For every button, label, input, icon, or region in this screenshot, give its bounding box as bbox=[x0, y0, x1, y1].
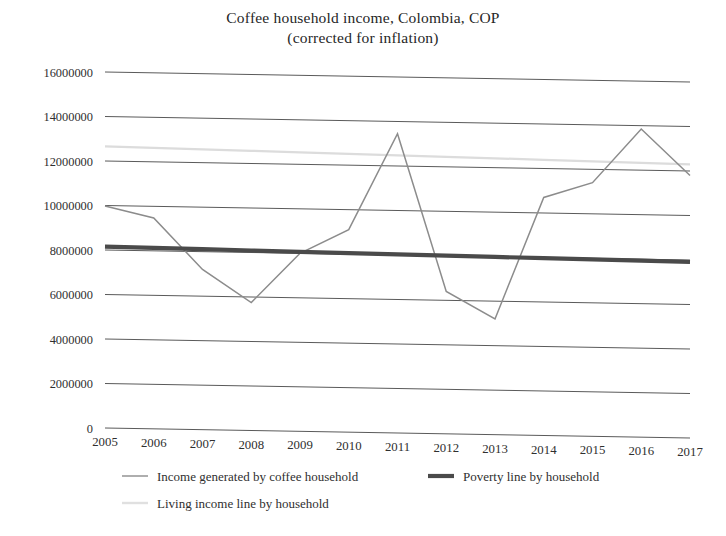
gridline bbox=[105, 339, 690, 349]
x-axis-tick-label: 2016 bbox=[628, 444, 654, 458]
legend-label: Income generated by coffee household bbox=[157, 469, 359, 484]
y-axis-tick-label: 16000000 bbox=[43, 66, 93, 80]
y-axis-tick-label: 6000000 bbox=[50, 288, 93, 302]
x-axis-tick-label: 2007 bbox=[190, 437, 216, 451]
x-axis-tick-label: 2009 bbox=[287, 438, 313, 452]
legend-label: Poverty line by household bbox=[463, 469, 600, 484]
legend-label: Living income line by household bbox=[157, 496, 329, 511]
y-axis-tick-label: 10000000 bbox=[43, 199, 93, 213]
x-axis-tick-label: 2008 bbox=[238, 438, 264, 452]
x-axis-tick-label: 2005 bbox=[92, 435, 118, 449]
x-axis-tick-label: 2012 bbox=[433, 441, 459, 455]
x-axis-tick-label: 2017 bbox=[677, 445, 703, 459]
gridline bbox=[105, 117, 690, 127]
y-axis-tick-labels: 1600000014000000120000001000000080000006… bbox=[43, 66, 93, 436]
x-axis-tick-label: 2014 bbox=[531, 443, 557, 457]
chart-plot: 1600000014000000120000001000000080000006… bbox=[0, 0, 726, 536]
data-series-group bbox=[105, 129, 690, 319]
y-axis-tick-label: 14000000 bbox=[43, 110, 93, 124]
y-axis-tick-label: 8000000 bbox=[50, 244, 93, 258]
chart-container: Coffee household income, Colombia, COP (… bbox=[0, 0, 726, 536]
chart-legend: Income generated by coffee householdPove… bbox=[122, 469, 600, 511]
gridline bbox=[105, 295, 690, 305]
y-axis-tick-label: 4000000 bbox=[50, 333, 93, 347]
x-axis-tick-label: 2010 bbox=[336, 439, 362, 453]
x-axis-tick-label: 2011 bbox=[385, 440, 410, 454]
gridline bbox=[105, 384, 690, 394]
y-axis-tick-label: 0 bbox=[87, 422, 93, 436]
x-axis-tick-label: 2006 bbox=[141, 436, 167, 450]
y-axis-tick-label: 12000000 bbox=[43, 155, 93, 169]
gridline bbox=[105, 206, 690, 216]
gridline bbox=[105, 72, 690, 82]
y-axis-tick-label: 2000000 bbox=[50, 377, 93, 391]
x-axis-tick-labels: 2005200620072008200920102011201220132014… bbox=[92, 435, 703, 459]
x-axis-tick-label: 2015 bbox=[580, 443, 606, 457]
series-line-living bbox=[105, 146, 690, 164]
x-axis-tick-label: 2013 bbox=[482, 442, 508, 456]
series-line-income bbox=[105, 129, 690, 319]
